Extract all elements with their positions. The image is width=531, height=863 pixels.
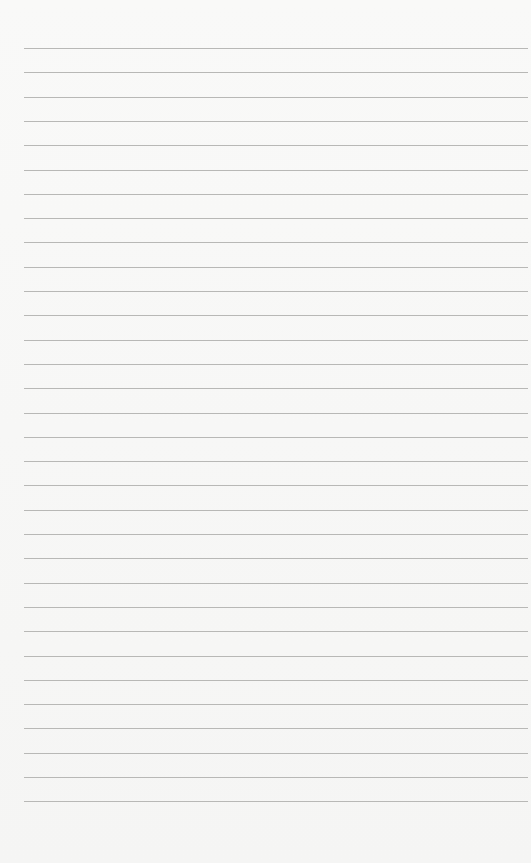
ruled-line xyxy=(24,534,528,535)
ruled-line xyxy=(24,510,528,511)
ruled-line xyxy=(24,728,528,729)
ruled-line xyxy=(24,558,528,559)
ruled-line xyxy=(24,340,528,341)
ruled-line xyxy=(24,48,528,49)
ruled-line xyxy=(24,485,528,486)
ruled-line xyxy=(24,753,528,754)
ruled-line xyxy=(24,97,528,98)
ruled-line xyxy=(24,72,528,73)
ruled-line xyxy=(24,170,528,171)
ruled-line xyxy=(24,631,528,632)
ruled-line xyxy=(24,680,528,681)
ruled-line xyxy=(24,218,528,219)
ruled-line xyxy=(24,121,528,122)
ruled-line xyxy=(24,145,528,146)
ruled-line xyxy=(24,413,528,414)
ruled-line xyxy=(24,777,528,778)
ruled-line xyxy=(24,364,528,365)
ruled-line xyxy=(24,194,528,195)
ruled-line xyxy=(24,388,528,389)
ruled-line xyxy=(24,607,528,608)
ruled-line xyxy=(24,315,528,316)
ruled-line xyxy=(24,291,528,292)
ruled-line xyxy=(24,461,528,462)
ruled-line xyxy=(24,242,528,243)
ruled-line xyxy=(24,267,528,268)
lined-paper xyxy=(0,0,531,863)
ruled-line xyxy=(24,583,528,584)
ruled-line xyxy=(24,801,528,802)
ruled-line xyxy=(24,437,528,438)
ruled-line xyxy=(24,656,528,657)
ruled-line xyxy=(24,704,528,705)
